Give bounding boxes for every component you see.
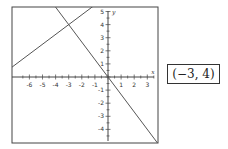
y-tick-label: -1 bbox=[98, 86, 104, 93]
plot-frame bbox=[12, 7, 158, 143]
answer-text: (−3, 4) bbox=[172, 67, 214, 81]
x-tick-label: 1 bbox=[119, 81, 123, 88]
x-tick-label: -5 bbox=[40, 81, 46, 88]
y-tick-label: 3 bbox=[100, 34, 104, 41]
y-tick-label: -3 bbox=[98, 112, 104, 119]
x-tick-label: -4 bbox=[53, 81, 59, 88]
y-axis-label: y bbox=[111, 8, 116, 16]
x-tick-label: -6 bbox=[26, 81, 32, 88]
x-tick-label: -2 bbox=[79, 81, 85, 88]
y-tick-label: 4 bbox=[100, 21, 104, 28]
y-tick-label: -4 bbox=[98, 125, 104, 132]
y-tick-label: 2 bbox=[100, 47, 104, 54]
x-tick-label: 3 bbox=[145, 81, 149, 88]
coordinate-plane: -6-5-4-3-2-112354321-1-2-3-4xy bbox=[0, 0, 160, 149]
x-tick-label: -3 bbox=[66, 81, 72, 88]
y-tick-label: 5 bbox=[100, 8, 104, 15]
y-tick-label: -2 bbox=[98, 99, 104, 106]
y-tick-label: 1 bbox=[100, 60, 104, 67]
answer-box: (−3, 4) bbox=[167, 64, 220, 84]
x-tick-label: 2 bbox=[132, 81, 136, 88]
